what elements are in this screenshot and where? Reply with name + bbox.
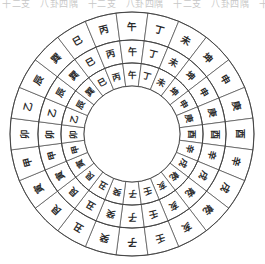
compass-glyph-middle-ring-卯: 卯 xyxy=(44,130,55,139)
compass-glyph-middle-ring-子: 子 xyxy=(128,212,137,222)
compass-glyph-outer-ring-子: 子 xyxy=(127,237,137,248)
compass-glyph-outer-ring-卯: 卯 xyxy=(19,129,30,139)
compass-glyph-inner-ring-午: 午 xyxy=(128,70,137,80)
compass-inner-hub xyxy=(84,86,180,182)
compass-glyph-outer-ring-午: 午 xyxy=(127,21,137,32)
compass-glyph-middle-ring-午: 午 xyxy=(128,46,137,57)
compass-glyph-outer-ring-酉: 酉 xyxy=(235,129,246,139)
compass-glyph-inner-ring-卯: 卯 xyxy=(68,130,78,139)
compass-svg: 子癸丑艮寅甲卯乙辰巽巳丙午丁未坤申庚酉辛戌乾亥壬子癸丑艮寅甲卯乙辰巽巳丙午丁未坤… xyxy=(0,8,265,264)
compass-glyph-inner-ring-子: 子 xyxy=(128,189,137,199)
compass-glyph-middle-ring-酉: 酉 xyxy=(210,130,220,139)
compass-glyph-inner-ring-酉: 酉 xyxy=(187,130,197,139)
compass-diagram: 子癸丑艮寅甲卯乙辰巽巳丙午丁未坤申庚酉辛戌乾亥壬子癸丑艮寅甲卯乙辰巽巳丙午丁未坤… xyxy=(0,8,265,264)
